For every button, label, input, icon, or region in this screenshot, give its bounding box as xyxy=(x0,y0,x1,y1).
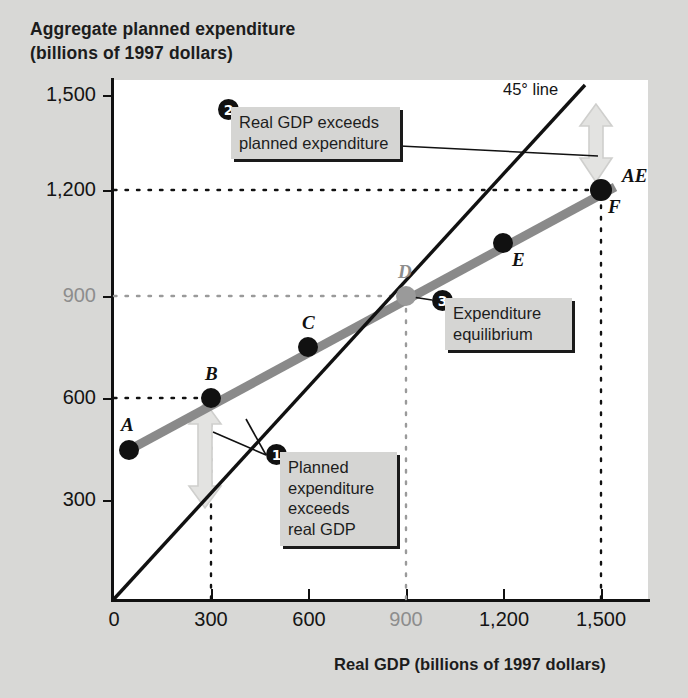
point-label-D: D xyxy=(398,261,412,283)
annotation-box-3: Expenditure equilibrium xyxy=(445,298,572,350)
point-label-F: F xyxy=(608,196,621,218)
point-C xyxy=(298,337,318,357)
aggregate-expenditure-chart: Aggregate planned expenditure (billions … xyxy=(0,0,688,698)
ae-curve-label: AE xyxy=(622,165,647,187)
annotation-box-2: Real GDP exceeds planned expenditure xyxy=(231,107,400,159)
point-A xyxy=(119,440,139,460)
point-D xyxy=(396,286,416,306)
point-B xyxy=(201,388,221,408)
point-E xyxy=(493,233,513,253)
point-label-B: B xyxy=(205,363,218,385)
point-label-A: A xyxy=(121,414,134,436)
annotation-box-1: Planned expenditure exceeds real GDP xyxy=(280,452,397,546)
forty-five-degree-line-label: 45° line xyxy=(503,80,558,99)
gap-arrow-gdp-exceeds-planned xyxy=(580,104,612,182)
chart-graphics xyxy=(0,0,688,698)
point-label-C: C xyxy=(302,312,315,334)
point-label-E: E xyxy=(512,249,525,271)
